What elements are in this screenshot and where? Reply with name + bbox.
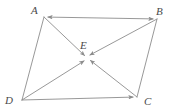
vertex-label-a: A (31, 5, 38, 16)
diagonal-segment-D-to-E (22, 61, 84, 100)
diagonal-segment-B-to-E (90, 19, 157, 55)
vertex-label-b: B (156, 6, 163, 17)
side-AD (22, 17, 44, 100)
vertex-label-c: C (144, 96, 151, 107)
geometry-figure: A B C D E (0, 0, 172, 112)
vertex-label-d: D (5, 95, 13, 106)
side-DC (22, 97, 133, 100)
diagonal-segment-C-to-E (44, 17, 85, 56)
side-BC (137, 19, 157, 97)
diagonal-segment-A-to-E (91, 61, 138, 98)
vertex-label-e: E (80, 40, 87, 51)
side-AB (48, 17, 153, 19)
